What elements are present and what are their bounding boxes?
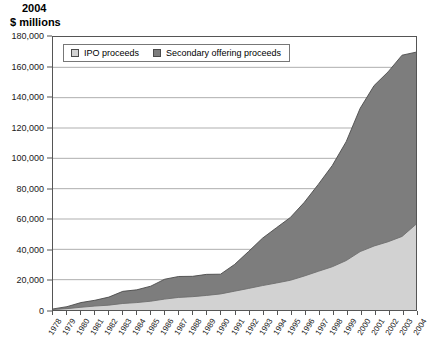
x-axis-tick-mark bbox=[403, 311, 404, 315]
chart-page: 2004 $ millions 020,00040,00060,00080,00… bbox=[0, 0, 432, 356]
x-axis-tick-mark bbox=[178, 311, 179, 315]
x-axis-tick-label: 2003 bbox=[398, 317, 415, 337]
x-axis-tick-label: 2000 bbox=[355, 317, 372, 337]
y-axis-tick-label: 140,000 bbox=[11, 92, 44, 102]
y-axis-tick-label: 100,000 bbox=[11, 153, 44, 163]
x-axis-tick-mark bbox=[66, 311, 67, 315]
title-line-units: $ millions bbox=[10, 15, 61, 29]
x-axis-tick-label: 1978 bbox=[47, 317, 64, 337]
x-axis-tick-label: 1985 bbox=[145, 317, 162, 337]
y-axis-tick-label: 20,000 bbox=[16, 275, 44, 285]
legend-label-ipo: IPO proceeds bbox=[84, 48, 139, 58]
y-axis-tick-label: 60,000 bbox=[16, 214, 44, 224]
x-axis-tick-mark bbox=[94, 311, 95, 315]
x-axis-tick-label: 1997 bbox=[313, 317, 330, 337]
x-axis-tick-label: 1986 bbox=[159, 317, 176, 337]
x-axis-tick-label: 1998 bbox=[327, 317, 344, 337]
x-axis-tick-mark bbox=[122, 311, 123, 315]
legend-layer: IPO proceeds Secondary offering proceeds bbox=[53, 37, 416, 310]
x-axis-tick-label: 1982 bbox=[103, 317, 120, 337]
x-axis-tick-mark bbox=[389, 311, 390, 315]
x-axis-tick-mark bbox=[235, 311, 236, 315]
x-axis-tick-label: 1983 bbox=[117, 317, 134, 337]
y-axis-tick-label: 160,000 bbox=[11, 62, 44, 72]
x-axis-tick-label: 1988 bbox=[187, 317, 204, 337]
legend-item-secondary: Secondary offering proceeds bbox=[153, 48, 281, 58]
x-axis-tick-mark bbox=[164, 311, 165, 315]
x-axis-tick-mark bbox=[80, 311, 81, 315]
y-axis-tick-label: 120,000 bbox=[11, 123, 44, 133]
x-axis-tick-mark bbox=[206, 311, 207, 315]
x-axis-tick-mark bbox=[150, 311, 151, 315]
x-axis-tick-mark bbox=[361, 311, 362, 315]
x-axis-tick-mark bbox=[136, 311, 137, 315]
y-axis: 020,00040,00060,00080,000100,000120,0001… bbox=[0, 36, 52, 311]
x-axis-tick-label: 1981 bbox=[89, 317, 106, 337]
x-axis-tick-mark bbox=[417, 311, 418, 315]
legend-swatch-secondary-icon bbox=[153, 49, 161, 57]
x-axis-tick-label: 1980 bbox=[75, 317, 92, 337]
x-axis: 1978197919801981198219831984198519861987… bbox=[52, 311, 417, 356]
x-axis-tick-label: 2001 bbox=[369, 317, 386, 337]
x-axis-tick-label: 2004 bbox=[412, 317, 429, 337]
x-axis-tick-mark bbox=[347, 311, 348, 315]
y-axis-tick-label: 0 bbox=[39, 306, 44, 316]
x-axis-tick-mark bbox=[375, 311, 376, 315]
x-axis-tick-label: 1987 bbox=[173, 317, 190, 337]
chart-title: 2004 $ millions bbox=[22, 1, 61, 29]
x-axis-tick-label: 2002 bbox=[383, 317, 400, 337]
x-axis-tick-label: 1979 bbox=[61, 317, 78, 337]
x-axis-tick-mark bbox=[291, 311, 292, 315]
x-axis-tick-label: 1996 bbox=[299, 317, 316, 337]
legend-item-ipo: IPO proceeds bbox=[71, 48, 139, 58]
x-axis-tick-mark bbox=[220, 311, 221, 315]
x-axis-tick-mark bbox=[108, 311, 109, 315]
x-axis-tick-mark bbox=[249, 311, 250, 315]
chart-legend: IPO proceeds Secondary offering proceeds bbox=[63, 44, 290, 62]
y-axis-tick-label: 40,000 bbox=[16, 245, 44, 255]
x-axis-tick-mark bbox=[305, 311, 306, 315]
y-axis-tick-label: 80,000 bbox=[16, 184, 44, 194]
x-axis-tick-label: 1989 bbox=[201, 317, 218, 337]
x-axis-tick-mark bbox=[333, 311, 334, 315]
x-axis-tick-label: 1990 bbox=[215, 317, 232, 337]
y-axis-tick-label: 180,000 bbox=[11, 31, 44, 41]
plot-area: IPO proceeds Secondary offering proceeds bbox=[52, 36, 417, 311]
x-axis-tick-mark bbox=[263, 311, 264, 315]
x-axis-tick-mark bbox=[52, 311, 53, 315]
x-axis-tick-label: 1984 bbox=[131, 317, 148, 337]
x-axis-tick-label: 1999 bbox=[341, 317, 358, 337]
x-axis-tick-label: 1991 bbox=[229, 317, 246, 337]
title-line-year: 2004 bbox=[22, 1, 61, 15]
legend-swatch-ipo-icon bbox=[71, 49, 79, 57]
legend-label-secondary: Secondary offering proceeds bbox=[166, 48, 281, 58]
x-axis-tick-mark bbox=[192, 311, 193, 315]
x-axis-tick-mark bbox=[319, 311, 320, 315]
x-axis-tick-label: 1995 bbox=[285, 317, 302, 337]
x-axis-tick-mark bbox=[277, 311, 278, 315]
